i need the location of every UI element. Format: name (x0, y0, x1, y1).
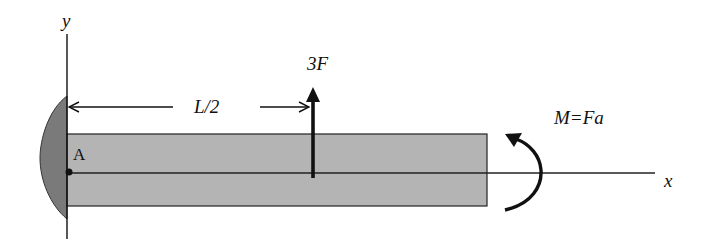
beam-diagram: y x A L/2 3F M=Fa (0, 0, 710, 248)
force-label: 3F (306, 53, 329, 74)
moment-label: M=Fa (553, 107, 604, 128)
x-axis-label: x (663, 170, 673, 191)
force-arrow-head (306, 87, 320, 102)
beam (67, 134, 487, 206)
y-axis-label: y (60, 10, 71, 31)
fixed-support-wall (40, 96, 67, 219)
point-a-label: A (73, 145, 86, 164)
point-a-dot (66, 169, 73, 176)
dimension-label: L/2 (193, 96, 220, 117)
moment-arc (505, 139, 541, 210)
